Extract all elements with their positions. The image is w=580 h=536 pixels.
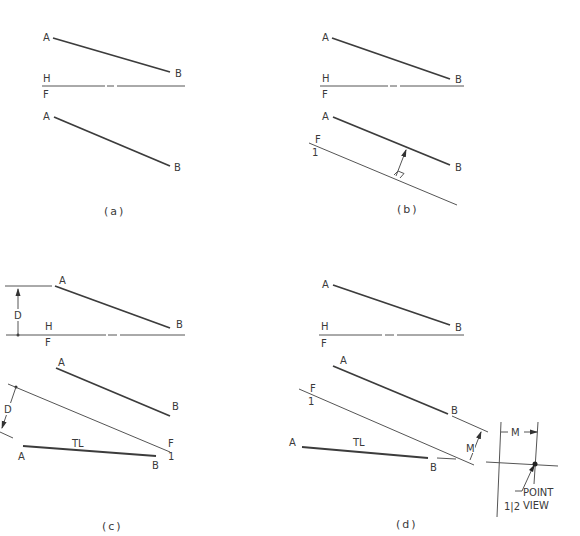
caption-a: (a) [104,205,125,218]
label-f: F [315,134,321,145]
label-f: F [45,337,51,348]
label-view: VIEW [523,500,549,511]
label-b: B [451,405,458,416]
label-a: A [322,279,329,290]
panel-c: A B D H F A B F 1 D A B TL (c) [0,275,185,533]
panel-a: A B H F A B (a) [42,32,185,218]
line-ab-true-length [23,446,156,456]
label-b: B [176,319,183,330]
line-ab-top-view [55,286,170,328]
label-a: A [18,451,25,462]
line-ab-top-view [53,38,170,72]
label-d: D [4,404,12,415]
label-point: POINT [523,487,554,498]
fold-line-12 [497,422,501,517]
label-m: M [466,443,475,454]
label-a: A [43,111,50,122]
label-1: 1 [168,451,174,462]
label-b: B [152,460,159,471]
label-1: 1 [312,147,318,158]
label-h: H [321,321,329,332]
projector-line [534,422,538,484]
label-b: B [174,162,181,173]
label-a: A [340,355,347,366]
label-h: H [322,73,330,84]
label-f: F [43,89,49,100]
descriptive-geometry-figure: A B H F A B (a) A B H F A B F 1 (b) A B [0,0,580,536]
caption-c: (c) [102,520,123,533]
reference-line [486,462,558,466]
label-a: A [322,111,329,122]
label-f: F [310,383,316,394]
label-b: B [455,74,462,85]
label-a: A [289,437,296,448]
fold-line-f1 [8,384,170,452]
label-f: F [321,338,327,349]
caption-b: (b) [397,203,419,216]
label-a: A [322,32,329,43]
label-d: D [14,310,22,321]
label-f: F [168,438,174,449]
line-ab-true-length [302,447,428,458]
label-b: B [455,162,462,173]
label-1: 1 [308,396,314,407]
panel-d: A B H F A B F 1 A B TL M 1|2 M POINT VIE… [289,279,558,531]
label-b: B [430,462,437,473]
label-a: A [58,357,65,368]
label-f: F [322,89,328,100]
line-ab-top-view [332,38,450,79]
label-a: A [59,275,66,286]
fold-line-f1 [309,143,457,205]
line-ab-front-view [333,117,450,165]
label-b: B [455,322,462,333]
label-b: B [172,401,179,412]
right-angle-mark [394,171,404,178]
line-ab-front-view [333,366,448,414]
panel-b: A B H F A B F 1 (b) [309,32,464,216]
label-a: A [43,32,50,43]
label-h: H [43,73,51,84]
label-m: M [511,427,520,438]
label-12: 1|2 [504,501,520,513]
label-b: B [175,68,182,79]
label-tl: TL [71,438,84,449]
label-h: H [45,321,53,332]
line-ab-front-view [54,117,170,166]
line-ab-top-view [333,285,450,325]
line-ab-front-view [56,368,170,416]
label-tl: TL [352,437,365,448]
caption-d: (d) [396,518,418,531]
